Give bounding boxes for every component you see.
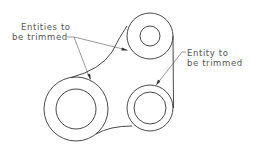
bottom-connecting-arc — [96, 126, 132, 134]
left-label: Entities to be trimmed — [21, 22, 71, 42]
top-inner-circle — [140, 26, 160, 46]
leader-line-to-left-arc — [74, 37, 90, 79]
bottom-right-inner-circle — [134, 92, 166, 124]
leader-line-to-right-circle — [157, 52, 186, 84]
left-label-line1: Entities to — [21, 22, 71, 32]
right-label-line1: Entity to — [187, 48, 243, 58]
bottom-left-outer-circle — [44, 77, 108, 141]
arrowhead-top-circle — [121, 48, 128, 51]
right-label: Entity to be trimmed — [187, 48, 243, 68]
left-label-line2: be trimmed — [12, 32, 71, 42]
right-label-line2: be trimmed — [187, 58, 243, 68]
bottom-left-inner-circle — [56, 89, 96, 129]
leader-line-to-top-circle — [67, 37, 127, 50]
diagram-canvas: Entities to be trimmed Entity to be trim… — [0, 0, 257, 149]
top-outer-circle — [127, 13, 173, 59]
right-tangent-line — [173, 36, 174, 108]
